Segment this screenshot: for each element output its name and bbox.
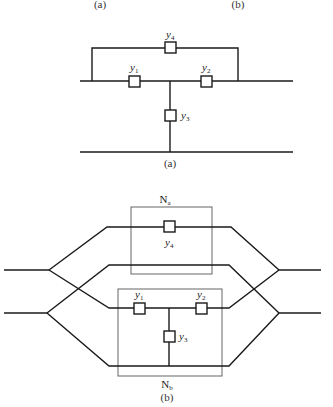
element-y4-box xyxy=(165,42,176,53)
element-y2-box xyxy=(201,76,212,87)
path-bottom xyxy=(47,313,279,366)
element-y4-label: y4 xyxy=(164,236,174,250)
element-y2-box xyxy=(196,303,207,314)
element-y2-label: y2 xyxy=(201,61,211,75)
element-y3-label: y3 xyxy=(178,330,188,344)
element-y3-label: y3 xyxy=(180,109,190,123)
diagram-a: y4 y1 y2 y3 (a) xyxy=(80,28,293,170)
caption-b: (b) xyxy=(161,391,174,404)
element-y2-label: y2 xyxy=(196,288,206,302)
element-y3-box xyxy=(165,110,176,121)
element-y4-label: y4 xyxy=(165,28,175,42)
diagram-b: Na Nb y4 y1 y2 y3 (b) xyxy=(4,193,321,404)
header-caption-b: (b) xyxy=(232,0,245,11)
element-y1-box xyxy=(134,303,145,314)
subnetwork-b-label: Nb xyxy=(161,378,173,392)
element-y4-box xyxy=(164,221,175,232)
element-y1-label: y1 xyxy=(129,61,139,75)
subnetwork-a-label: Na xyxy=(159,193,171,207)
path-top xyxy=(49,227,279,270)
element-y1-box xyxy=(129,76,140,87)
header-caption-a: (a) xyxy=(94,0,107,11)
caption-a: (a) xyxy=(164,157,177,170)
element-y1-label: y1 xyxy=(134,288,144,302)
subnetwork-a-frame xyxy=(131,207,212,274)
element-y3-box xyxy=(164,331,175,342)
diagram-canvas: (a) (b) y4 y1 y2 y3 (a) Na Nb xyxy=(0,0,333,407)
